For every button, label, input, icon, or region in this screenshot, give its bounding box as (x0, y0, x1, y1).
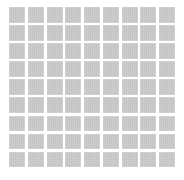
grid-tile-r1-c9[interactable] (159, 7, 175, 23)
grid-tile-r7-c4[interactable] (65, 116, 81, 132)
grid-tile-r4-c9[interactable] (159, 61, 175, 77)
grid-tile-r7-c9[interactable] (159, 116, 175, 132)
tile-grid (9, 7, 175, 167)
grid-tile-r4-c4[interactable] (65, 61, 81, 77)
grid-tile-r5-c3[interactable] (47, 79, 63, 95)
grid-tile-r1-c6[interactable] (103, 7, 119, 23)
grid-tile-r1-c4[interactable] (65, 7, 81, 23)
grid-tile-r6-c9[interactable] (159, 97, 175, 113)
grid-tile-r1-c2[interactable] (28, 7, 44, 23)
grid-tile-r2-c4[interactable] (65, 25, 81, 41)
grid-tile-r9-c9[interactable] (159, 152, 175, 168)
grid-tile-r4-c8[interactable] (140, 61, 156, 77)
grid-tile-r9-c3[interactable] (47, 152, 63, 168)
grid-tile-r8-c7[interactable] (122, 134, 138, 150)
grid-tile-r8-c5[interactable] (84, 134, 100, 150)
grid-tile-r7-c1[interactable] (9, 116, 25, 132)
grid-tile-r1-c5[interactable] (84, 7, 100, 23)
grid-tile-r2-c5[interactable] (84, 25, 100, 41)
grid-tile-r5-c7[interactable] (122, 79, 138, 95)
grid-tile-r3-c4[interactable] (65, 43, 81, 59)
grid-tile-r9-c8[interactable] (140, 152, 156, 168)
grid-tile-r2-c2[interactable] (28, 25, 44, 41)
grid-tile-r5-c5[interactable] (84, 79, 100, 95)
grid-tile-r7-c3[interactable] (47, 116, 63, 132)
grid-tile-r1-c7[interactable] (122, 7, 138, 23)
grid-tile-r4-c5[interactable] (84, 61, 100, 77)
grid-tile-r4-c3[interactable] (47, 61, 63, 77)
grid-tile-r6-c3[interactable] (47, 97, 63, 113)
grid-tile-r2-c3[interactable] (47, 25, 63, 41)
grid-tile-r4-c1[interactable] (9, 61, 25, 77)
grid-tile-r8-c4[interactable] (65, 134, 81, 150)
grid-tile-r8-c1[interactable] (9, 134, 25, 150)
grid-tile-r1-c1[interactable] (9, 7, 25, 23)
grid-tile-r7-c7[interactable] (122, 116, 138, 132)
grid-tile-r1-c8[interactable] (140, 7, 156, 23)
grid-tile-r8-c2[interactable] (28, 134, 44, 150)
grid-tile-r4-c7[interactable] (122, 61, 138, 77)
grid-tile-r7-c2[interactable] (28, 116, 44, 132)
grid-tile-r1-c3[interactable] (47, 7, 63, 23)
grid-tile-r8-c8[interactable] (140, 134, 156, 150)
grid-tile-r6-c5[interactable] (84, 97, 100, 113)
grid-tile-r7-c5[interactable] (84, 116, 100, 132)
grid-tile-r2-c8[interactable] (140, 25, 156, 41)
grid-tile-r5-c6[interactable] (103, 79, 119, 95)
grid-tile-r9-c6[interactable] (103, 152, 119, 168)
grid-tile-r5-c4[interactable] (65, 79, 81, 95)
grid-tile-r6-c2[interactable] (28, 97, 44, 113)
grid-tile-r3-c5[interactable] (84, 43, 100, 59)
grid-tile-r3-c7[interactable] (122, 43, 138, 59)
grid-tile-r8-c3[interactable] (47, 134, 63, 150)
grid-tile-r9-c7[interactable] (122, 152, 138, 168)
grid-tile-r6-c7[interactable] (122, 97, 138, 113)
grid-tile-r3-c1[interactable] (9, 43, 25, 59)
grid-tile-r9-c2[interactable] (28, 152, 44, 168)
grid-tile-r7-c6[interactable] (103, 116, 119, 132)
grid-tile-r2-c1[interactable] (9, 25, 25, 41)
grid-tile-r3-c2[interactable] (28, 43, 44, 59)
grid-tile-r6-c4[interactable] (65, 97, 81, 113)
grid-tile-r6-c8[interactable] (140, 97, 156, 113)
grid-tile-r2-c9[interactable] (159, 25, 175, 41)
grid-tile-r8-c9[interactable] (159, 134, 175, 150)
grid-tile-r5-c8[interactable] (140, 79, 156, 95)
grid-tile-r7-c8[interactable] (140, 116, 156, 132)
grid-tile-r5-c9[interactable] (159, 79, 175, 95)
grid-tile-r5-c1[interactable] (9, 79, 25, 95)
grid-tile-r4-c2[interactable] (28, 61, 44, 77)
grid-tile-r5-c2[interactable] (28, 79, 44, 95)
grid-tile-r3-c9[interactable] (159, 43, 175, 59)
grid-tile-r2-c6[interactable] (103, 25, 119, 41)
grid-tile-r8-c6[interactable] (103, 134, 119, 150)
grid-tile-r6-c1[interactable] (9, 97, 25, 113)
grid-tile-r4-c6[interactable] (103, 61, 119, 77)
grid-tile-r9-c4[interactable] (65, 152, 81, 168)
grid-tile-r9-c5[interactable] (84, 152, 100, 168)
grid-tile-r6-c6[interactable] (103, 97, 119, 113)
grid-tile-r3-c6[interactable] (103, 43, 119, 59)
grid-tile-r9-c1[interactable] (9, 152, 25, 168)
grid-tile-r2-c7[interactable] (122, 25, 138, 41)
grid-tile-r3-c3[interactable] (47, 43, 63, 59)
grid-tile-r3-c8[interactable] (140, 43, 156, 59)
